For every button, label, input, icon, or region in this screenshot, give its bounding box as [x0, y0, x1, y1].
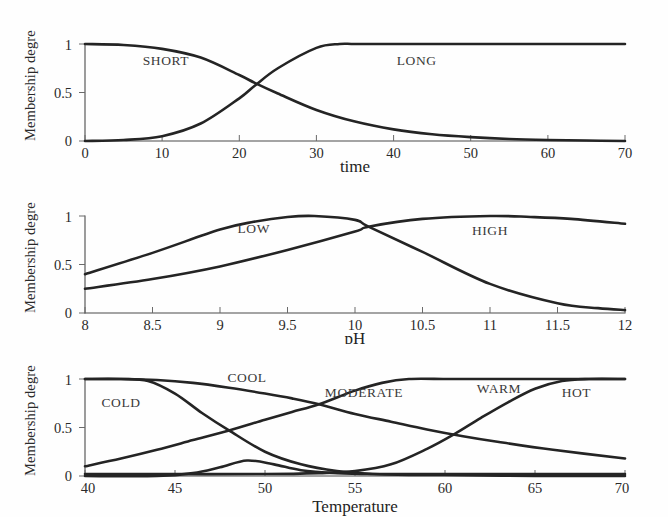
x-tick-label-temp-55: 55	[348, 480, 363, 496]
x-tick-label-temp-60: 60	[438, 480, 453, 496]
x-tick-label-temp-40: 40	[81, 480, 96, 496]
chart-panel-temperature: Membership degre 1 0.5 0 40 45 50 55 60 …	[0, 344, 668, 517]
curve-high	[85, 216, 625, 289]
x-tick-label-temp-70: 70	[615, 480, 630, 496]
y-axis-label-ph: Membership degre	[22, 202, 38, 313]
y-tick-label-ph-1: 1	[65, 209, 72, 225]
annotation-warm: WARM	[477, 381, 521, 396]
annotation-long: LONG	[397, 53, 437, 68]
annotation-low: LOW	[238, 221, 271, 236]
x-tick-label-ph-11: 11	[483, 317, 497, 333]
chart-ph-svg: Membership degre 1 0.5 0 8 8.5 9 9.5 10 …	[0, 172, 668, 344]
x-axis-title-temperature: Temperature	[312, 497, 398, 516]
chart-panel-time: Membership degre 1 0.5 0 0 10 20	[0, 0, 668, 172]
x-tick-label-time-10: 10	[155, 145, 170, 161]
annotation-hot: HOT	[562, 385, 592, 400]
y-tick-label-time-1: 1	[65, 37, 72, 53]
x-tick-label-ph-12: 12	[618, 317, 633, 333]
fuzzy-membership-figure: Membership degre 1 0.5 0 0 10 20	[0, 0, 668, 517]
x-tick-label-temp-45: 45	[168, 480, 183, 496]
x-tick-label-temp-50: 50	[258, 480, 273, 496]
y-axis-label-temperature: Membership degre	[22, 365, 38, 476]
y-tick-label-temp-1: 1	[65, 372, 72, 388]
x-tick-label-temp-65: 65	[528, 480, 543, 496]
annotation-cool: COOL	[227, 370, 266, 385]
chart-time-svg: Membership degre 1 0.5 0 0 10 20	[0, 0, 668, 172]
y-tick-label-ph-05: 0.5	[54, 257, 72, 273]
x-tick-label-ph-115: 11.5	[545, 317, 570, 333]
annotation-moderate: MODERATE	[325, 385, 403, 400]
chart-temperature-svg: Membership degre 1 0.5 0 40 45 50 55 60 …	[0, 344, 668, 517]
x-tick-label-ph-95: 9.5	[278, 317, 296, 333]
x-axis-title-time: time	[340, 157, 370, 172]
x-tick-label-time-30: 30	[309, 145, 324, 161]
x-axis-title-ph: pH	[345, 329, 366, 344]
x-tick-label-ph-8: 8	[81, 317, 88, 333]
x-tick-label-ph-9: 9	[216, 317, 223, 333]
x-tick-label-time-70: 70	[618, 145, 633, 161]
x-tick-label-time-50: 50	[463, 145, 478, 161]
x-tick-label-time-0: 0	[81, 145, 88, 161]
x-tick-label-time-60: 60	[541, 145, 556, 161]
annotation-cold: COLD	[101, 395, 140, 410]
y-tick-label-time-05: 0.5	[54, 85, 72, 101]
y-axis-label-time: Membership degre	[22, 30, 38, 141]
y-tick-label-temp-0: 0	[65, 468, 72, 484]
chart-panel-ph: Membership degre 1 0.5 0 8 8.5 9 9.5 10 …	[0, 172, 668, 344]
x-tick-label-time-40: 40	[386, 145, 401, 161]
x-tick-label-time-20: 20	[232, 145, 247, 161]
x-tick-label-ph-105: 10.5	[410, 317, 435, 333]
x-tick-label-ph-85: 8.5	[143, 317, 161, 333]
y-tick-label-temp-05: 0.5	[54, 420, 72, 436]
y-tick-label-time-0: 0	[65, 133, 72, 149]
annotation-high: HIGH	[472, 223, 508, 238]
y-tick-label-ph-0: 0	[65, 305, 72, 321]
curve-low	[85, 216, 625, 310]
annotation-short: SHORT	[143, 53, 190, 68]
